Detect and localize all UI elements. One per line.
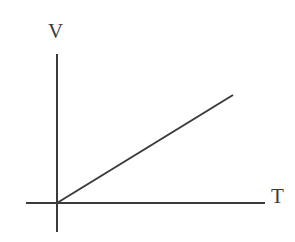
x-axis-label: T [271,186,284,207]
plot-canvas [0,0,295,242]
plot-background [0,0,295,242]
y-axis-label: V [48,21,63,42]
figure-root: V T [0,0,295,242]
